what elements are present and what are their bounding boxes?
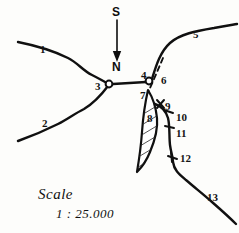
feature-label-13: 13 xyxy=(207,192,218,203)
west-junction-node xyxy=(106,81,113,88)
feature-label-7: 7 xyxy=(140,90,146,101)
compass-arrow xyxy=(113,20,121,62)
feature-label-9: 9 xyxy=(165,101,171,112)
scale-caption-ratio: 1 : 25.000 xyxy=(56,206,114,222)
feature-label-5: 5 xyxy=(193,29,199,40)
feature-label-4: 4 xyxy=(141,70,147,81)
feature-label-10: 10 xyxy=(176,112,187,123)
feature-label-6: 6 xyxy=(161,75,167,86)
line-feature-3-connector xyxy=(113,82,146,84)
compass-label-s: S xyxy=(112,6,120,18)
feature-label-8: 8 xyxy=(147,113,153,124)
feature-label-3: 3 xyxy=(95,81,101,92)
feature-label-2: 2 xyxy=(42,118,48,129)
feature-label-12: 12 xyxy=(180,153,191,164)
line-feature-1 xyxy=(18,42,107,83)
feature-label-11: 11 xyxy=(176,128,186,139)
hatched-body-feature-8 xyxy=(120,90,170,188)
sketch-map-figure: S N 1 2 3 4 5 6 7 8 9 10 11 12 13 Scale … xyxy=(0,0,239,233)
line-feature-2 xyxy=(18,86,108,141)
scale-caption-word: Scale xyxy=(38,186,73,203)
traverse-line-features-9-to-13 xyxy=(155,104,236,224)
feature-label-1: 1 xyxy=(40,44,46,55)
sketch-drawing xyxy=(0,0,239,233)
compass-label-n: N xyxy=(112,61,121,73)
